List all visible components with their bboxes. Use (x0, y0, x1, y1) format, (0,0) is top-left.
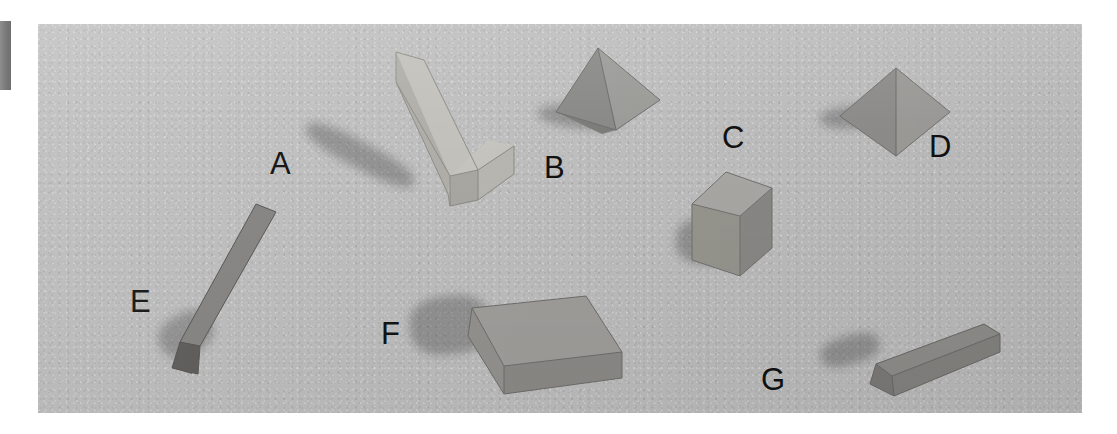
photo-vignette (38, 24, 1082, 413)
screenshot-canvas: A B C D E F G (0, 0, 1117, 434)
geometric-solids-photograph: A B C D E F G (38, 24, 1082, 413)
left-edge-marker (0, 21, 11, 90)
